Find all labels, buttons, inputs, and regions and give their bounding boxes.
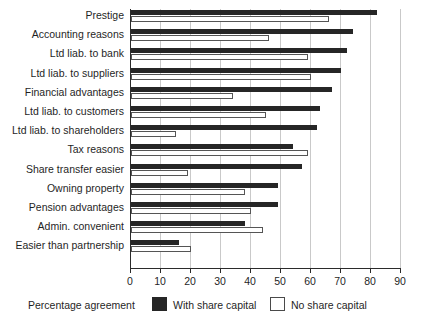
chart-row: Share transfer easier (130, 163, 401, 182)
x-axis-tick (370, 268, 371, 273)
x-axis-tick-label: 80 (355, 275, 385, 287)
x-axis-tick-label: 90 (385, 275, 415, 287)
bar-with-share-capital (131, 87, 332, 92)
category-label: Ltd liab. to bank (0, 47, 124, 60)
x-axis-tick (340, 268, 341, 273)
bar-with-share-capital (131, 68, 341, 73)
chart-row: Ltd liab. to customers (130, 105, 401, 124)
plot-area: 0102030405060708090PrestigeAccounting re… (130, 9, 400, 268)
chart-row: Pension advantages (130, 201, 401, 220)
bar-no-share-capital (131, 35, 269, 41)
category-label: Accounting reasons (0, 28, 124, 41)
chart-legend: Percentage agreement With share capital … (0, 296, 421, 316)
bar-with-share-capital (131, 106, 320, 111)
bar-with-share-capital (131, 221, 245, 226)
category-label: Owning property (0, 182, 124, 195)
bar-no-share-capital (131, 54, 308, 60)
bar-with-share-capital (131, 183, 278, 188)
x-axis-tick-label: 50 (265, 275, 295, 287)
chart-row: Financial advantages (130, 86, 401, 105)
bar-with-share-capital (131, 240, 179, 245)
category-label: Ltd liab. to shareholders (0, 124, 124, 137)
x-axis-tick (220, 268, 221, 273)
chart-row: Tax reasons (130, 143, 401, 162)
chart-row: Owning property (130, 182, 401, 201)
chart-row: Prestige (130, 9, 401, 28)
bar-no-share-capital (131, 150, 308, 156)
bar-with-share-capital (131, 48, 347, 53)
x-axis-tick-label: 10 (145, 275, 175, 287)
bar-no-share-capital (131, 93, 233, 99)
chart-title-clipped (0, 0, 421, 6)
bar-no-share-capital (131, 246, 191, 252)
bar-no-share-capital (131, 227, 263, 233)
legend-label-no-share-capital: No share capital (291, 299, 367, 311)
bar-no-share-capital (131, 131, 176, 137)
chart-row: Ltd liab. to suppliers (130, 67, 401, 86)
legend-swatch-dark (152, 297, 167, 311)
x-axis-tick (310, 268, 311, 273)
legend-swatch-light (270, 297, 285, 311)
category-label: Ltd liab. to suppliers (0, 67, 124, 80)
x-axis-tick-label: 70 (325, 275, 355, 287)
chart-row: Ltd liab. to shareholders (130, 124, 401, 143)
bar-no-share-capital (131, 16, 329, 22)
x-axis-title: Percentage agreement (28, 299, 135, 311)
category-label: Share transfer easier (0, 163, 124, 176)
x-axis-tick-label: 20 (175, 275, 205, 287)
bar-no-share-capital (131, 74, 311, 80)
x-axis-tick (280, 268, 281, 273)
bar-with-share-capital (131, 144, 293, 149)
bar-no-share-capital (131, 112, 266, 118)
bar-no-share-capital (131, 189, 245, 195)
x-axis-tick (190, 268, 191, 273)
legend-label-with-share-capital: With share capital (173, 299, 256, 311)
bar-with-share-capital (131, 10, 377, 15)
x-axis-tick (130, 268, 131, 273)
chart-row: Admin. convenient (130, 220, 401, 239)
x-axis-tick-label: 0 (115, 275, 145, 287)
x-axis-tick (400, 268, 401, 273)
bar-with-share-capital (131, 202, 278, 207)
category-label: Pension advantages (0, 201, 124, 214)
bar-with-share-capital (131, 29, 353, 34)
bar-no-share-capital (131, 170, 188, 176)
x-axis-tick-label: 30 (205, 275, 235, 287)
category-label: Tax reasons (0, 143, 124, 156)
chart-row: Accounting reasons (130, 28, 401, 47)
chart-row: Easier than partnership (130, 239, 401, 258)
x-axis-line (130, 268, 401, 269)
bar-no-share-capital (131, 208, 251, 214)
bar-with-share-capital (131, 125, 317, 130)
category-label: Financial advantages (0, 86, 124, 99)
x-axis-tick (250, 268, 251, 273)
category-label: Prestige (0, 9, 124, 22)
x-axis-tick-label: 60 (295, 275, 325, 287)
category-label: Easier than partnership (0, 239, 124, 252)
category-label: Admin. convenient (0, 220, 124, 233)
x-axis-tick-label: 40 (235, 275, 265, 287)
chart-row: Ltd liab. to bank (130, 47, 401, 66)
bar-chart: 0102030405060708090PrestigeAccounting re… (0, 0, 421, 328)
x-axis-tick (160, 268, 161, 273)
bar-with-share-capital (131, 164, 302, 169)
category-label: Ltd liab. to customers (0, 105, 124, 118)
